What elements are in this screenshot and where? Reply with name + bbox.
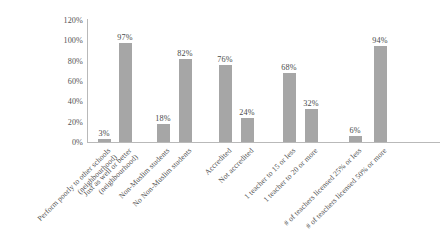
bar-value-label: 82% xyxy=(177,49,192,58)
bar-value-label: 24% xyxy=(239,108,254,117)
y-axis-tick-80: 80% xyxy=(68,56,88,65)
bar-value-label: 76% xyxy=(217,55,232,64)
bar-value-label: 32% xyxy=(303,99,318,108)
y-axis-tick-100: 100% xyxy=(63,36,88,45)
bar-value-label: 97% xyxy=(117,33,132,42)
y-axis-tick-60: 60% xyxy=(68,77,88,86)
y-axis-tick-20: 20% xyxy=(68,117,88,126)
bar-value-label: 94% xyxy=(372,36,387,45)
bar-chart: 120%100%80%60%40%20%0% 3%97%18%82%76%24%… xyxy=(0,0,445,252)
bar-value-label: 68% xyxy=(281,63,296,72)
bar-value-label: 6% xyxy=(349,126,360,135)
y-axis-tick-40: 40% xyxy=(68,97,88,106)
y-axis-tick-120: 120% xyxy=(63,16,88,25)
bar[interactable]: 68% xyxy=(283,73,296,142)
y-axis-tick-0: 0% xyxy=(72,138,88,147)
bar-value-label: 3% xyxy=(98,129,109,138)
bar[interactable]: 6% xyxy=(349,136,362,142)
